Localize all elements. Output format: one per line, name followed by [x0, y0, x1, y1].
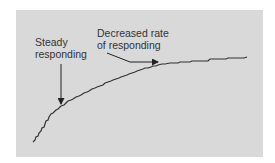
- response-curve: [33, 57, 247, 142]
- label-line: Decreased rate: [97, 27, 169, 39]
- label-line: of responding: [97, 39, 169, 51]
- decreased-rate-label: Decreased rate of responding: [97, 27, 169, 51]
- steady-responding-label: Steady responding: [35, 36, 87, 60]
- label-line: responding: [35, 48, 87, 60]
- cumulative-record-plot: [0, 0, 275, 163]
- label-line: Steady: [35, 36, 87, 48]
- decreased-rate-arrow: [107, 53, 158, 62]
